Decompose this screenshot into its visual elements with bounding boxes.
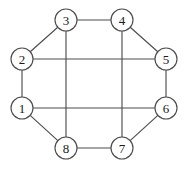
edge-8-1 <box>30 115 58 140</box>
node-label-2: 2 <box>19 52 26 67</box>
edge-2-3 <box>30 27 58 51</box>
node-7[interactable]: 7 <box>111 137 133 159</box>
node-3[interactable]: 3 <box>55 9 77 31</box>
node-label-5: 5 <box>163 52 170 67</box>
node-8[interactable]: 8 <box>55 137 77 159</box>
node-label-8: 8 <box>63 141 70 156</box>
node-5[interactable]: 5 <box>155 48 177 70</box>
node-label-4: 4 <box>119 13 126 28</box>
edge-4-5 <box>130 27 158 51</box>
graph-diagram: 12345678 <box>0 0 188 172</box>
node-label-1: 1 <box>19 101 26 116</box>
node-layer: 12345678 <box>11 9 177 159</box>
node-label-6: 6 <box>163 101 170 116</box>
node-6[interactable]: 6 <box>155 97 177 119</box>
node-label-7: 7 <box>119 141 126 156</box>
node-label-3: 3 <box>63 13 70 28</box>
graph-canvas: 12345678 <box>0 0 188 172</box>
edge-6-7 <box>130 115 158 140</box>
node-1[interactable]: 1 <box>11 97 33 119</box>
node-4[interactable]: 4 <box>111 9 133 31</box>
edge-layer <box>22 20 166 148</box>
node-2[interactable]: 2 <box>11 48 33 70</box>
